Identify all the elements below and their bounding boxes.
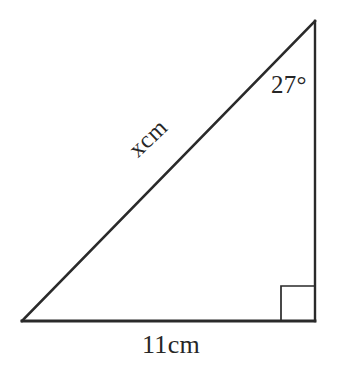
base-label-11cm: 11cm — [142, 332, 200, 358]
triangle-figure — [0, 0, 338, 368]
angle-label-27: 27° — [271, 72, 307, 97]
diagram-background — [0, 0, 338, 368]
triangle-diagram: 27° xcm 11cm — [0, 0, 338, 368]
